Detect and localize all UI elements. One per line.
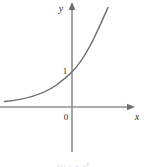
figure-caption-text: (a) y = a	[56, 163, 86, 167]
y-intercept-tick-label: 1	[63, 66, 68, 76]
figure-caption: (a) y = ax	[0, 158, 145, 167]
figure-caption-exponent: x	[86, 160, 89, 167]
origin-label: 0	[64, 112, 69, 122]
y-axis-label: y	[58, 3, 64, 14]
x-axis-label: x	[134, 111, 140, 122]
exponential-function-graph: y x 1 0	[0, 0, 145, 167]
